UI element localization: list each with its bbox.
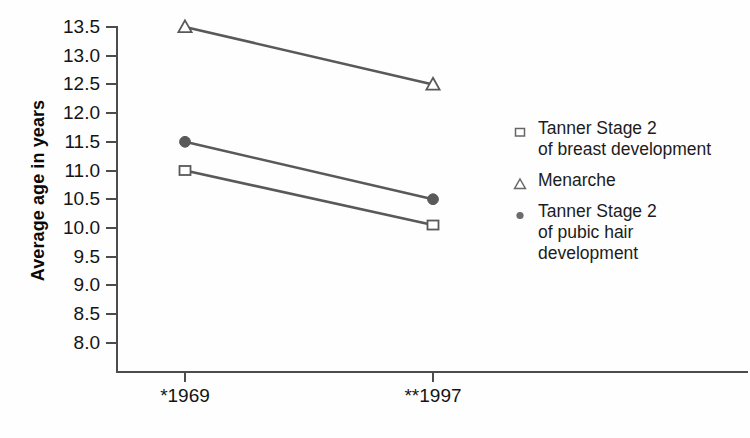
series-group xyxy=(180,136,439,204)
filled-circle-marker xyxy=(428,194,439,205)
open-triangle-icon xyxy=(512,176,528,192)
filled-circle-icon xyxy=(512,207,528,223)
open-square-marker xyxy=(428,221,439,230)
legend-item[interactable]: Tanner Stage 2 of breast development xyxy=(512,118,750,160)
series-line xyxy=(185,171,433,226)
chart-figure: Average age in years 13.513.012.512.011.… xyxy=(0,0,750,438)
open-square-icon xyxy=(512,124,528,140)
series-line xyxy=(185,27,433,84)
legend-item-label: Menarche xyxy=(538,170,616,190)
legend-item-label: Tanner Stage 2 of breast development xyxy=(538,118,711,159)
legend-item-label: Tanner Stage 2 of pubic hair development xyxy=(538,201,657,263)
filled-circle-marker xyxy=(180,136,191,147)
open-triangle-marker xyxy=(178,20,191,32)
legend-item[interactable]: Menarche xyxy=(512,170,750,191)
series-group xyxy=(178,20,439,89)
legend-item[interactable]: Tanner Stage 2 of pubic hair development xyxy=(512,201,750,264)
chart-legend: Tanner Stage 2 of breast developmentMena… xyxy=(512,118,750,274)
series-group xyxy=(180,166,439,230)
open-square-marker xyxy=(180,166,191,175)
series-line xyxy=(185,142,433,199)
